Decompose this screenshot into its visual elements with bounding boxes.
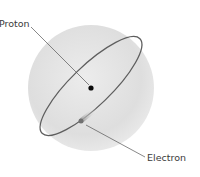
electron bbox=[79, 119, 84, 124]
hydrogen-atom-diagram: Proton Electron bbox=[0, 0, 200, 177]
electron-label: Electron bbox=[147, 152, 186, 163]
proton bbox=[88, 85, 93, 90]
proton-label: Proton bbox=[0, 18, 30, 29]
